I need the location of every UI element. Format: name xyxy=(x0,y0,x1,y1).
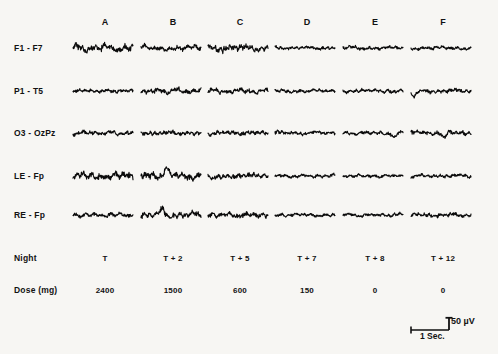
eeg-trace-o3-ozpz-e xyxy=(343,118,403,148)
eeg-trace-o3-ozpz-d xyxy=(275,118,335,148)
dose-value-f: 0 xyxy=(441,286,446,295)
eeg-trace-f1-f7-e xyxy=(343,33,403,63)
column-header-a: A xyxy=(102,17,109,27)
channel-label-re-fp: RE - Fp xyxy=(14,210,45,220)
channel-label-f1-f7: F1 - F7 xyxy=(14,43,43,53)
dose-value-e: 0 xyxy=(373,286,378,295)
eeg-trace-o3-ozpz-f xyxy=(411,118,471,148)
eeg-trace-re-fp-b xyxy=(141,200,201,230)
eeg-trace-o3-ozpz-a xyxy=(73,118,133,148)
eeg-trace-le-fp-a xyxy=(73,161,133,191)
eeg-trace-p1-t5-e xyxy=(343,76,403,106)
eeg-trace-le-fp-c xyxy=(208,161,268,191)
eeg-figure: A B C D E F F1 - F7 P1 - T5 O3 - OzPz LE… xyxy=(0,0,498,354)
eeg-trace-f1-f7-f xyxy=(411,33,471,63)
eeg-trace-re-fp-c xyxy=(208,200,268,230)
column-header-e: E xyxy=(372,17,378,27)
eeg-trace-re-fp-e xyxy=(343,200,403,230)
eeg-trace-p1-t5-a xyxy=(73,76,133,106)
column-header-c: C xyxy=(237,17,244,27)
dose-value-a: 2400 xyxy=(96,286,115,295)
channel-label-o3-ozpz: O3 - OzPz xyxy=(14,128,55,138)
dose-value-b: 1500 xyxy=(164,286,183,295)
eeg-trace-f1-f7-d xyxy=(275,33,335,63)
eeg-trace-o3-ozpz-b xyxy=(141,118,201,148)
eeg-trace-f1-f7-b xyxy=(141,33,201,63)
eeg-trace-f1-f7-a xyxy=(73,33,133,63)
eeg-trace-p1-t5-d xyxy=(275,76,335,106)
channel-label-p1-t5: P1 - T5 xyxy=(14,86,43,96)
column-header-d: D xyxy=(304,17,311,27)
eeg-trace-le-fp-f xyxy=(411,161,471,191)
scalebar-time-label: 1 Sec. xyxy=(420,331,445,341)
eeg-trace-le-fp-d xyxy=(275,161,335,191)
night-value-d: T + 7 xyxy=(297,254,316,263)
eeg-trace-p1-t5-b xyxy=(141,76,201,106)
annotation-label-dose: Dose (mg) xyxy=(14,285,57,295)
night-value-a: T xyxy=(102,254,107,263)
page-bleed-artifact xyxy=(300,343,303,350)
night-value-c: T + 5 xyxy=(230,254,249,263)
eeg-trace-p1-t5-f xyxy=(411,76,471,106)
dose-value-d: 150 xyxy=(300,286,314,295)
dose-value-c: 600 xyxy=(233,286,247,295)
eeg-trace-p1-t5-c xyxy=(208,76,268,106)
eeg-trace-le-fp-e xyxy=(343,161,403,191)
annotation-label-night: Night xyxy=(14,253,37,263)
eeg-trace-re-fp-a xyxy=(73,200,133,230)
night-value-f: T + 12 xyxy=(431,254,455,263)
night-value-e: T + 8 xyxy=(365,254,384,263)
eeg-trace-o3-ozpz-c xyxy=(208,118,268,148)
night-value-b: T + 2 xyxy=(163,254,182,263)
column-header-b: B xyxy=(170,17,177,27)
eeg-trace-re-fp-f xyxy=(411,200,471,230)
scalebar-amplitude-label: 50 µV xyxy=(451,316,475,326)
channel-label-le-fp: LE - Fp xyxy=(14,171,44,181)
column-header-f: F xyxy=(440,17,446,27)
eeg-trace-f1-f7-c xyxy=(208,33,268,63)
eeg-trace-le-fp-b xyxy=(141,161,201,191)
eeg-trace-re-fp-d xyxy=(275,200,335,230)
